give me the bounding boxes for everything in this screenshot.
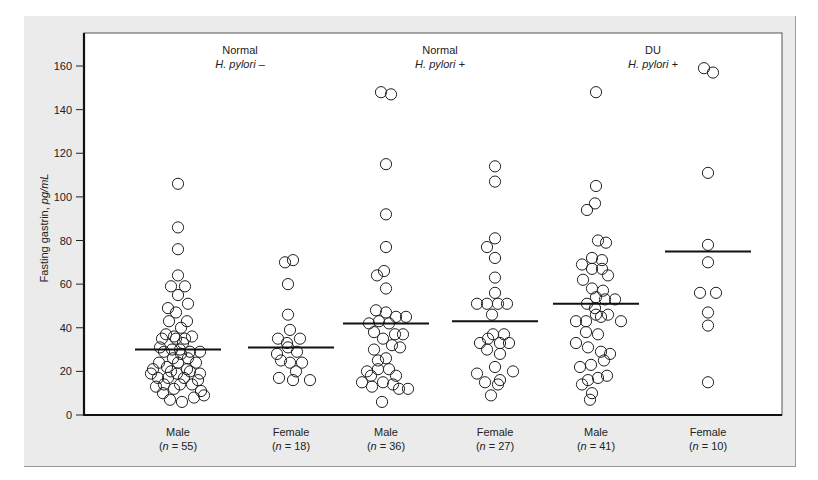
- y-tick-label: 60: [60, 278, 72, 290]
- y-tick-label: 40: [60, 322, 72, 334]
- x-sample-size: (n = 36): [367, 440, 405, 452]
- x-sample-size: (n = 10): [689, 440, 727, 452]
- x-category-label: Female: [477, 426, 514, 438]
- x-axis-labels: Male(n = 55)Female(n = 18)Male(n = 36)Fe…: [159, 426, 727, 452]
- x-sample-size: (n = 27): [476, 440, 514, 452]
- x-category-label: Female: [273, 426, 310, 438]
- panel-header-subtitle: H. pylori +: [628, 58, 678, 70]
- panel-header-title: DU: [645, 44, 661, 56]
- panel-header-title: Normal: [222, 44, 257, 56]
- y-label-text: Fasting gastrin,: [38, 204, 50, 282]
- x-category-label: Male: [374, 426, 398, 438]
- y-tick-label: 160: [54, 60, 72, 72]
- y-axis-label: Fasting gastrin, pg/mL: [38, 174, 50, 283]
- panel-header-title: Normal: [422, 44, 457, 56]
- x-sample-size: (n = 18): [272, 440, 310, 452]
- y-tick-label: 140: [54, 104, 72, 116]
- x-sample-size: (n = 55): [159, 440, 197, 452]
- panel-header-subtitle: H. pylori –: [215, 58, 265, 70]
- x-sample-size: (n = 41): [577, 440, 615, 452]
- dot-plot-chart: 020406080100120140160 NormalH. pylori –N…: [0, 0, 818, 480]
- y-tick-label: 100: [54, 191, 72, 203]
- y-tick-label: 120: [54, 147, 72, 159]
- x-category-label: Male: [166, 426, 190, 438]
- y-tick-label: 20: [60, 365, 72, 377]
- y-tick-label: 80: [60, 235, 72, 247]
- x-category-label: Male: [584, 426, 608, 438]
- y-label-unit: pg/mL: [38, 174, 50, 206]
- panel-header-subtitle: H. pylori +: [415, 58, 465, 70]
- x-category-label: Female: [690, 426, 727, 438]
- y-tick-label: 0: [66, 409, 72, 421]
